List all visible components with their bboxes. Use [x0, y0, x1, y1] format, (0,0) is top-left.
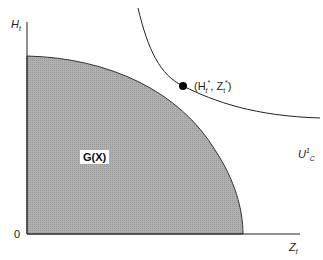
diagram-canvas [0, 0, 323, 260]
tangency-point-label: (Ht*, Zt*) [194, 79, 232, 94]
indifference-curve-label: U1C [298, 147, 315, 162]
x-axis-label: Zt [289, 241, 298, 255]
origin-label: 0 [14, 228, 20, 240]
tangency-point [179, 82, 187, 90]
y-axis-label: Ht [11, 18, 21, 32]
region-label: G(X) [80, 150, 109, 164]
